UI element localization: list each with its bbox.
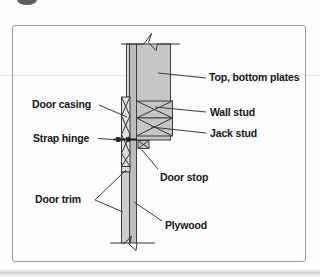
door-trim-shape (122, 172, 130, 243)
label-door-trim: Door trim (35, 194, 81, 205)
door-stop-shape (138, 141, 149, 149)
page: Top, bottom plates Wall stud Jack stud D… (0, 0, 320, 277)
label-jack-stud: Jack stud (210, 128, 257, 139)
label-door-casing: Door casing (32, 99, 91, 110)
label-strap-hinge: Strap hinge (33, 133, 89, 144)
door-casing-shape (122, 97, 131, 172)
label-door-stop: Door stop (160, 172, 208, 183)
label-top-bottom-plates: Top, bottom plates (209, 72, 299, 83)
label-wall-stud: Wall stud (210, 107, 255, 118)
plywood-shape (130, 44, 137, 243)
wall-stud-shape (137, 101, 173, 118)
label-plywood: Plywood (165, 220, 207, 231)
page-bottom-edge (0, 269, 320, 277)
